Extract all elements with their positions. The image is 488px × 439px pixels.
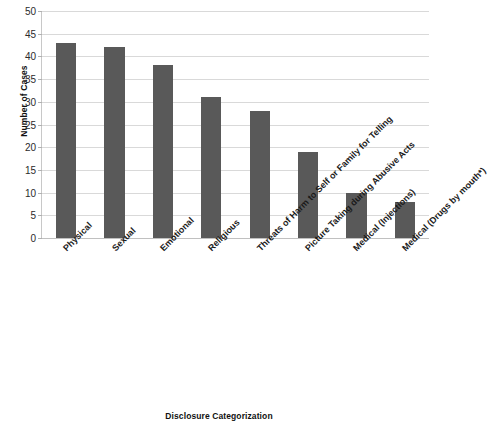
y-axis-tick-mark (38, 170, 42, 171)
gridline (42, 193, 429, 194)
x-axis-title: Disclosure Categorization (0, 411, 438, 421)
gridline (42, 170, 429, 171)
y-axis-tick-label: 15 (25, 164, 36, 175)
bar (56, 43, 76, 238)
y-axis-tick-label: 10 (25, 187, 36, 198)
gridline (42, 56, 429, 57)
y-axis-tick-mark (38, 193, 42, 194)
gridline (42, 102, 429, 103)
y-axis-tick-label: 0 (30, 233, 36, 244)
bar (104, 47, 124, 238)
y-axis-tick-mark (38, 56, 42, 57)
x-axis-label-group: PhysicalSexualEmotionalReligiousThreats … (41, 238, 429, 398)
y-axis-tick-label: 5 (30, 210, 36, 221)
y-axis-tick-label: 45 (25, 28, 36, 39)
y-axis-tick-mark (38, 125, 42, 126)
y-axis-tick-label: 30 (25, 96, 36, 107)
gridline (42, 11, 429, 12)
gridline (42, 215, 429, 216)
y-axis-tick-mark (38, 102, 42, 103)
y-axis-tick-mark (38, 34, 42, 35)
y-axis-tick-label: 50 (25, 6, 36, 17)
bar (201, 97, 221, 238)
y-axis-tick-label: 35 (25, 74, 36, 85)
y-axis-tick-mark (38, 79, 42, 80)
gridline (42, 79, 429, 80)
plot-area: 05101520253035404550 (41, 11, 429, 238)
bar (250, 111, 270, 238)
bar (153, 65, 173, 238)
y-axis-tick-mark (38, 215, 42, 216)
y-axis-tick-mark (38, 11, 42, 12)
gridline (42, 147, 429, 148)
y-axis-tick-label: 40 (25, 51, 36, 62)
gridline (42, 34, 429, 35)
y-axis-tick-label: 25 (25, 119, 36, 130)
y-axis-tick-mark (38, 147, 42, 148)
y-axis-tick-label: 20 (25, 142, 36, 153)
gridline (42, 125, 429, 126)
